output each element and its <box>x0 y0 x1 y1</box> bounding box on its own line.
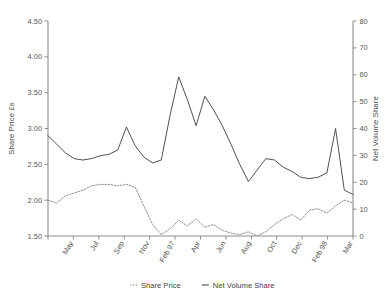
y-axis-tick-label: 1.50 <box>28 232 42 241</box>
chart-container: 4.504.003.503.002.502.001.50807060504030… <box>0 0 388 300</box>
y2-axis-tick-label: 30 <box>360 151 368 160</box>
x-axis-tick-label: Oct <box>265 240 279 254</box>
y-axis-tick-label: 3.50 <box>28 88 42 97</box>
y-axis-tick-label: 3.00 <box>28 124 42 133</box>
y2-axis-tick-label: 60 <box>360 70 368 79</box>
x-axis-tick-label: Sep <box>112 240 126 256</box>
x-axis-tick-label: Aug <box>239 239 253 255</box>
y-axis-tick-label: 2.50 <box>28 160 42 169</box>
y-axis-tick-label: 4.50 <box>28 17 42 26</box>
y2-axis-tick-label: 40 <box>360 124 368 133</box>
y2-axis-tick-label: 20 <box>360 178 368 187</box>
y-axis-title: Share Price £s <box>7 102 16 155</box>
y2-axis-tick-label: 80 <box>360 17 368 26</box>
y2-axis-tick-label: 70 <box>360 43 368 52</box>
y-axis-tick-label: 4.00 <box>28 52 42 61</box>
x-axis-tick-label: Apr <box>189 239 203 254</box>
series-line-solid <box>48 77 353 195</box>
x-axis-tick-label: Jul <box>88 239 101 252</box>
x-axis-tick-label: Nov <box>137 239 152 255</box>
y2-axis-tick-label: 50 <box>360 97 368 106</box>
legend-label: Share Price <box>141 281 181 290</box>
y2-axis-tick-label: 0 <box>360 232 364 241</box>
y2-axis-title: Net Volume Share <box>371 96 380 161</box>
x-axis-tick-label: May <box>60 239 75 256</box>
legend-label: Net Volume Share <box>213 281 275 290</box>
x-axis-tick-label: Dec <box>290 239 305 255</box>
x-axis-tick-label: Feb 98 <box>310 240 329 264</box>
x-axis-tick-label: Jun <box>214 240 228 255</box>
x-axis-tick-label: Mar <box>341 239 355 255</box>
x-axis-tick-label: Feb 97 <box>158 240 177 264</box>
y-axis-tick-label: 2.00 <box>28 196 42 205</box>
dual-axis-line-chart: 4.504.003.503.002.502.001.50807060504030… <box>0 0 388 300</box>
y2-axis-tick-label: 10 <box>360 205 368 214</box>
series-line-dotted <box>48 184 353 236</box>
